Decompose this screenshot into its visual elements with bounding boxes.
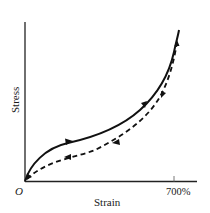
origin-label: O — [15, 185, 23, 197]
stress-strain-diagram: O 700% Strain Stress — [0, 0, 210, 213]
arrow-down-left-icon — [26, 173, 32, 180]
loading-curve — [25, 30, 179, 181]
arrow-down-icon — [161, 91, 166, 98]
unloading-curve — [25, 42, 177, 181]
x-tick-label: 700% — [166, 186, 191, 197]
x-axis-label: Strain — [94, 196, 121, 208]
y-axis-label: Stress — [9, 87, 21, 113]
